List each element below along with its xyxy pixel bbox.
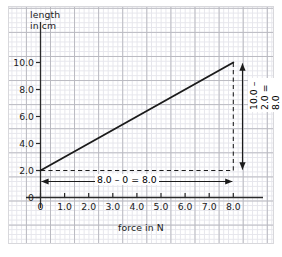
x-tick-label-0: 0 [28, 202, 54, 212]
y-axis-title: length in cm [30, 9, 60, 31]
y-axis-title-line2: in cm [30, 20, 60, 31]
y-tick-label-4: 4.0 [0, 139, 34, 149]
y-tick-label-6: 6.0 [0, 112, 34, 122]
y-tick-label-10: 10.0 [0, 58, 34, 68]
x-tick-label-7: 7.0 [196, 202, 222, 212]
x-tick-label-8: 8.0 [220, 202, 246, 212]
rise-annotation-label: 10.0 – 2.0 = 8.0 [248, 78, 281, 112]
graph-figure: length in cm force in N 10.0 8.0 6.0 4.0… [0, 0, 282, 257]
run-annotation-label: 8.0 – 0 = 8.0 [95, 174, 159, 185]
x-axis-ticks [41, 193, 234, 198]
x-tick-label-2: 2.0 [76, 202, 102, 212]
y-tick-label-8: 8.0 [0, 85, 34, 95]
x-tick-label-1: 1.0 [52, 202, 78, 212]
y-tick-label-0: 0 [0, 193, 34, 203]
x-tick-label-3: 3.0 [100, 202, 126, 212]
x-tick-label-4: 4.0 [124, 202, 150, 212]
data-line-series-1 [41, 63, 234, 171]
y-axis-ticks [36, 63, 41, 198]
y-tick-label-2: 2.0 [0, 166, 34, 176]
x-tick-label-6: 6.0 [172, 202, 198, 212]
x-tick-label-5: 5.0 [148, 202, 174, 212]
x-axis-title: force in N [0, 222, 282, 233]
y-axis-title-line1: length [30, 9, 60, 20]
plot-vector-layer [0, 0, 282, 257]
